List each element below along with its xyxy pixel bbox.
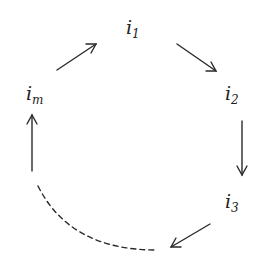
node-i3-sub: 3 — [231, 201, 239, 215]
node-i2-sub: 2 — [231, 93, 239, 107]
dashed-arc-ellipsis — [38, 186, 156, 250]
arrow-i1-to-i2 — [177, 44, 216, 71]
arrow-im-to-i1 — [57, 44, 96, 70]
node-im: im — [26, 84, 43, 106]
arrow-i2-to-i3 — [237, 121, 247, 175]
arrow-ellipsis-to-im — [27, 115, 37, 171]
node-i1: i1 — [126, 18, 140, 40]
node-i2: i2 — [225, 84, 239, 106]
node-i3: i3 — [225, 192, 239, 214]
node-im-sub: m — [32, 93, 43, 107]
node-i1-sub: 1 — [132, 27, 140, 41]
arrow-i3-to-ellipsis — [171, 224, 210, 247]
cycle-diagram: i1 i2 i3 im — [0, 0, 266, 266]
